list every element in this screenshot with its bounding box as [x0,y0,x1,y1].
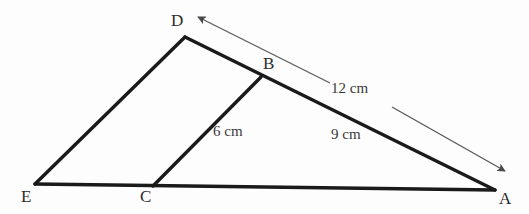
length-label-da: 12 cm [331,81,368,96]
vertex-label-C: C [140,188,151,205]
vertex-label-E: E [21,188,31,205]
segment-EA [35,184,495,190]
vertex-label-A: A [499,190,511,207]
vertex-label-B: B [263,55,274,72]
segment-ED [35,37,185,184]
segment-DA [185,37,495,190]
diagram-canvas [0,0,529,214]
dimension-arrow-upper-half [198,17,330,83]
vertex-label-D: D [171,12,183,29]
length-label-bc: 6 cm [213,124,243,139]
dimension-arrow-lower-half [392,107,505,171]
segment-BC [153,77,261,186]
geometry-figure: D B E C A 12 cm 9 cm 6 cm [0,0,529,214]
length-label-ba: 9 cm [331,127,361,142]
